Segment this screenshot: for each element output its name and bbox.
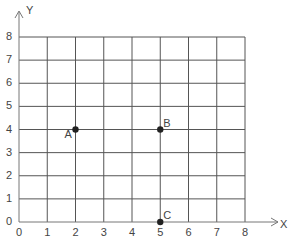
x-tick-label: 8 (242, 226, 248, 238)
x-tick-label: 0 (16, 226, 22, 238)
x-tick-label: 5 (157, 226, 163, 238)
y-axis-label: Y (26, 4, 34, 16)
y-tick-label: 8 (6, 30, 12, 42)
x-tick-label: 3 (101, 226, 107, 238)
point-label-c: C (163, 209, 171, 221)
y-tick-label: 2 (6, 169, 12, 181)
y-tick-label: 0 (6, 215, 12, 227)
y-tick-label: 6 (6, 76, 12, 88)
coordinate-grid: Y X 012345678 012345678 ABC (0, 0, 291, 242)
point-label-b: B (163, 117, 170, 129)
grid-lines (19, 37, 245, 222)
data-point-a (72, 126, 78, 132)
point-label-a: A (65, 128, 73, 140)
x-tick-label: 7 (214, 226, 220, 238)
x-tick-label: 2 (72, 226, 78, 238)
axes: Y X (15, 4, 288, 230)
y-tick-label: 4 (6, 123, 12, 135)
y-tick-label: 5 (6, 99, 12, 111)
x-tick-labels: 012345678 (16, 226, 248, 238)
y-tick-label: 3 (6, 146, 12, 158)
y-tick-label: 7 (6, 53, 12, 65)
y-tick-label: 1 (6, 192, 12, 204)
x-axis-label: X (280, 218, 288, 230)
data-points: ABC (65, 117, 172, 226)
x-tick-label: 4 (129, 226, 135, 238)
x-tick-label: 6 (185, 226, 191, 238)
x-tick-label: 1 (44, 226, 50, 238)
y-tick-labels: 012345678 (6, 30, 12, 227)
